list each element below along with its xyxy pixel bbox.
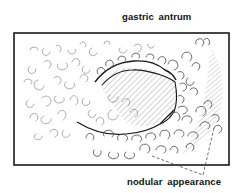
endoscopic-drawing	[0, 0, 240, 193]
label-nodular-appearance: nodular appearance	[127, 176, 221, 187]
label-gastric-antrum: gastric antrum	[122, 11, 191, 22]
illustration: gastric antrum nodular appearance	[0, 0, 240, 193]
